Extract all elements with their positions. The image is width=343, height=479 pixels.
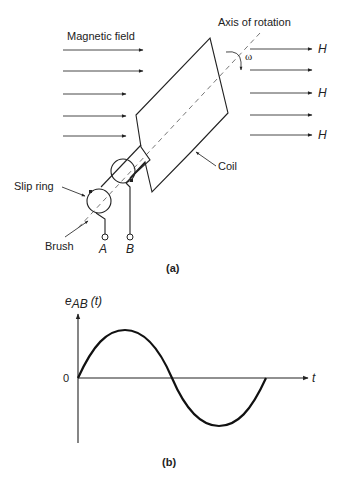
- terminal-a-icon: [102, 234, 108, 240]
- figure-b: eAB(t) 0 t (b): [63, 294, 316, 468]
- axis-of-rotation-line: [78, 33, 260, 228]
- caption-b: (b): [162, 456, 176, 468]
- lead-a: [96, 213, 105, 234]
- caption-a: (a): [166, 262, 180, 274]
- origin-label: 0: [63, 372, 69, 384]
- terminal-b-icon: [127, 234, 133, 240]
- lead-b: [126, 183, 130, 234]
- coil-pointer-icon: [196, 152, 216, 166]
- figure-a: Magnetic field Axis of rotation ω: [14, 16, 327, 274]
- coil-lead-a: [101, 145, 141, 187]
- slip-ring-label: Slip ring: [14, 180, 54, 192]
- coil: [130, 38, 228, 192]
- terminal-b-label: B: [126, 242, 134, 256]
- figure-canvas: Magnetic field Axis of rotation ω: [0, 0, 343, 479]
- right-field-arrows: [250, 49, 312, 135]
- axis-of-rotation-label: Axis of rotation: [218, 16, 291, 28]
- h-label-1: H: [318, 42, 327, 56]
- brush-b-icon: [130, 179, 133, 182]
- magnetic-field-label: Magnetic field: [67, 30, 135, 42]
- y-axis-label: eAB(t): [65, 294, 102, 311]
- brush-a-icon: [89, 190, 92, 193]
- slip-ring-pointer-icon: [62, 187, 85, 196]
- h-label-2: H: [318, 86, 327, 100]
- brush-label: Brush: [45, 240, 74, 252]
- left-field-arrows: [63, 50, 143, 136]
- x-axis-label: t: [312, 371, 316, 385]
- terminal-a-label: A: [98, 242, 107, 256]
- h-label-3: H: [318, 128, 327, 142]
- brush-pointer-icon: [65, 221, 88, 237]
- omega-label: ω: [245, 50, 252, 62]
- coil-label: Coil: [218, 160, 237, 172]
